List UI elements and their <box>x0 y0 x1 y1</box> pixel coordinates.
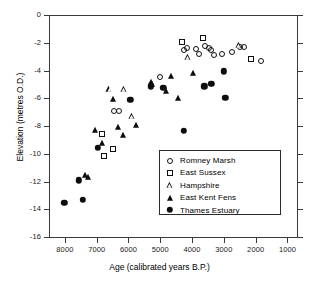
y-tick-label: 0 <box>15 10 41 19</box>
legend-marker-icon <box>160 191 180 204</box>
data-point <box>196 51 202 57</box>
x-tick-label: 7000 <box>80 245 114 254</box>
y-tick-mark <box>44 237 49 238</box>
legend-item-label: Hampshire <box>180 181 220 190</box>
legend-item: Thames Estuary <box>160 204 282 217</box>
legend-item-label: East Kent Fens <box>180 193 236 202</box>
data-point <box>128 113 135 119</box>
data-point <box>184 45 190 51</box>
y-tick-mark <box>44 182 49 183</box>
data-point <box>248 56 254 62</box>
legend-item: Hampshire <box>160 179 282 192</box>
y-tick-mark-right <box>298 154 303 155</box>
y-tick-label: -14 <box>15 204 41 213</box>
data-point <box>211 52 217 58</box>
x-tick-mark <box>256 238 257 243</box>
data-point <box>99 131 105 137</box>
legend-marker-icon <box>160 154 180 167</box>
y-tick-mark <box>44 43 49 44</box>
y-tick-mark <box>44 15 49 16</box>
data-point <box>190 70 196 76</box>
x-tick-mark <box>97 238 98 243</box>
x-tick-mark <box>224 238 225 243</box>
data-point <box>258 58 264 64</box>
data-point <box>99 139 105 145</box>
y-tick-mark-right <box>298 126 303 127</box>
scatter-plot-figure: 0-2-4-6-8-10-12-14-16 800070006000500040… <box>0 0 319 292</box>
data-point <box>106 86 113 92</box>
data-point <box>185 54 192 60</box>
x-tick-mark <box>192 238 193 243</box>
data-point <box>120 132 126 138</box>
x-tick-label: 6000 <box>111 245 145 254</box>
data-point <box>219 51 225 57</box>
x-tick-mark <box>65 238 66 243</box>
x-tick-label: 5000 <box>143 245 177 254</box>
x-axis-title: Age (calibrated years B.P.) <box>0 262 319 272</box>
x-tick-mark <box>128 238 129 243</box>
x-tick-label: 8000 <box>48 245 82 254</box>
data-point <box>110 146 116 152</box>
data-point <box>179 39 185 45</box>
data-point <box>175 94 181 100</box>
data-point <box>133 121 139 127</box>
x-tick-mark <box>160 238 161 243</box>
legend-marker-icon <box>160 179 180 192</box>
data-point <box>200 35 206 41</box>
axis-line-bottom <box>49 237 298 238</box>
x-tick-label: 3000 <box>207 245 241 254</box>
y-tick-mark-right <box>298 71 303 72</box>
data-point <box>157 74 163 80</box>
y-tick-mark-right <box>298 182 303 183</box>
data-point <box>116 108 122 114</box>
data-point <box>168 73 174 79</box>
axis-line-left <box>49 15 50 238</box>
y-tick-mark <box>44 98 49 99</box>
x-tick-label: 4000 <box>175 245 209 254</box>
data-point <box>236 42 243 48</box>
data-point <box>110 96 116 102</box>
y-tick-mark-right <box>298 98 303 99</box>
legend: Romney MarshEast SussexHampshireEast Ken… <box>159 150 281 215</box>
data-point <box>92 127 98 133</box>
y-tick-mark-right <box>298 237 303 238</box>
x-tick-label: 2000 <box>239 245 273 254</box>
data-point <box>229 49 235 55</box>
y-tick-mark-right <box>298 43 303 44</box>
legend-item-label: Thames Estuary <box>180 206 240 215</box>
legend-marker-icon <box>160 204 180 217</box>
x-tick-mark <box>287 238 288 243</box>
legend-item: Romney Marsh <box>160 154 282 167</box>
legend-marker-icon <box>160 166 180 179</box>
axis-line-top <box>49 15 298 16</box>
y-tick-mark-right <box>298 209 303 210</box>
x-tick-label: 1000 <box>270 245 304 254</box>
y-axis-title: Elevation (metres O.D.) <box>15 42 25 192</box>
data-point <box>115 123 121 129</box>
y-tick-mark-right <box>298 15 303 16</box>
legend-item-label: East Sussex <box>180 168 226 177</box>
legend-item-label: Romney Marsh <box>180 156 235 165</box>
y-tick-mark <box>44 126 49 127</box>
legend-item: East Kent Fens <box>160 191 282 204</box>
data-point <box>120 85 127 91</box>
y-tick-label: -16 <box>15 232 41 241</box>
legend-item: East Sussex <box>160 166 282 179</box>
y-tick-mark <box>44 71 49 72</box>
y-tick-mark <box>44 209 49 210</box>
data-point <box>101 153 107 159</box>
y-tick-mark <box>44 154 49 155</box>
data-point <box>85 173 91 179</box>
